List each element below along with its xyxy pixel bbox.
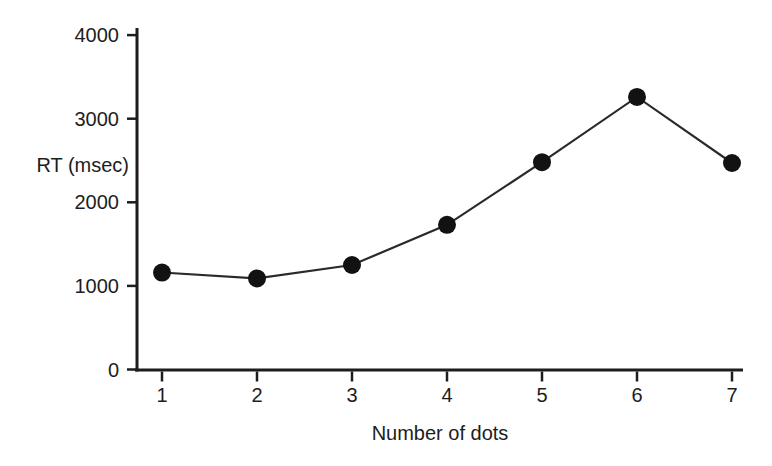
line-chart-canvas: 765432140003000200010000 RT (msec) Numbe…	[0, 0, 772, 466]
data-point	[533, 153, 551, 171]
x-tick-label: 5	[536, 384, 547, 406]
y-tick-label: 1000	[75, 275, 120, 297]
y-tick-label: 0	[108, 359, 119, 381]
data-point	[438, 216, 456, 234]
x-tick-label: 4	[441, 384, 452, 406]
x-tick-label: 3	[346, 384, 357, 406]
y-tick-label: 2000	[75, 191, 120, 213]
y-tick-label: 3000	[75, 108, 120, 130]
x-axis-label: Number of dots	[372, 422, 509, 444]
y-axis-label: RT (msec)	[36, 154, 129, 176]
data-point	[343, 256, 361, 274]
y-tick-label: 4000	[75, 24, 120, 46]
rt-vs-dots-figure: 765432140003000200010000 RT (msec) Numbe…	[0, 0, 772, 466]
data-point	[248, 269, 266, 287]
data-line	[162, 97, 732, 278]
x-tick-label: 2	[251, 384, 262, 406]
x-tick-label: 7	[726, 384, 737, 406]
x-tick-label: 6	[631, 384, 642, 406]
data-point	[153, 264, 171, 282]
x-tick-label: 1	[156, 384, 167, 406]
data-point	[628, 88, 646, 106]
data-point	[723, 154, 741, 172]
